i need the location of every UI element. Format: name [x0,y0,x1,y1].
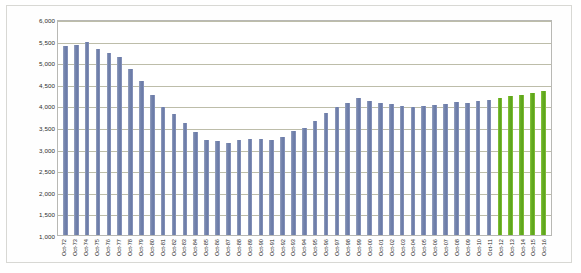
x-axis-tick-label: Oct-79 [138,239,144,256]
bar-slot [364,21,375,235]
y-axis-tick-label: 3,500 [22,125,55,132]
bar-series [58,21,551,235]
x-axis-tick-label: Oct-97 [334,239,340,256]
x-tick-slot: Oct-12 [495,238,506,272]
x-axis-tick-label: Oct-72 [61,239,67,256]
x-axis-tick-label: Oct-75 [94,239,100,256]
bar [443,104,448,235]
bar [193,132,198,235]
bar [183,123,188,235]
x-axis-tick-label: Oct-96 [323,239,329,256]
y-axis-tick-label: 3,000 [22,146,55,153]
plot-area [57,20,552,236]
x-axis-tick-label: Oct-04 [410,239,416,256]
bar-slot [179,21,190,235]
bar-slot [505,21,516,235]
y-axis: 6,0005,5005,0004,5004,0003,5003,0002,500… [22,20,55,236]
bar [128,69,133,235]
x-axis-tick-label: Oct-73 [72,239,78,256]
x-axis-tick-label: Oct-98 [345,239,351,256]
bar-slot [255,21,266,235]
x-tick-slot: Oct-14 [517,238,528,272]
x-tick-slot: Oct-84 [190,238,201,272]
x-axis-tick-label: Oct-76 [105,239,111,256]
x-axis-tick-label: Oct-92 [280,239,286,256]
bar [421,106,426,235]
x-axis-tick-label: Oct-86 [214,239,220,256]
x-axis-tick-label: Oct-05 [421,239,427,256]
x-axis-tick-label: Oct-81 [160,239,166,256]
x-tick-slot: Oct-74 [81,238,92,272]
x-axis-tick-label: Oct-08 [454,239,460,256]
bar [204,140,209,235]
y-axis-tick-label: 6,000 [22,17,55,24]
x-tick-slot: Oct-91 [266,238,277,272]
y-axis-tick-label: 5,000 [22,60,55,67]
x-axis-tick-label: Oct-84 [192,239,198,256]
bar-slot [321,21,332,235]
bar-slot [484,21,495,235]
x-tick-slot: Oct-11 [484,238,495,272]
bar-slot [234,21,245,235]
x-axis-tick-label: Oct-14 [520,239,526,256]
x-tick-slot: Oct-04 [408,238,419,272]
bar [85,42,90,235]
y-axis-tick-label: 4,000 [22,103,55,110]
bar-slot [516,21,527,235]
x-tick-slot: Oct-94 [299,238,310,272]
x-tick-slot: Oct-07 [441,238,452,272]
bar-slot [136,21,147,235]
bar [237,140,242,235]
x-axis-tick-label: Oct-00 [367,239,373,256]
x-tick-slot: Oct-79 [135,238,146,272]
x-tick-slot: Oct-10 [473,238,484,272]
x-tick-slot: Oct-00 [364,238,375,272]
x-axis-tick-label: Oct-83 [181,239,187,256]
bar-slot [331,21,342,235]
x-tick-slot: Oct-88 [234,238,245,272]
x-tick-slot: Oct-86 [212,238,223,272]
x-axis-tick-label: Oct-11 [487,239,493,256]
bar-slot [158,21,169,235]
bar [96,49,101,235]
x-axis-tick-label: Oct-15 [530,239,536,256]
x-axis-tick-label: Oct-99 [356,239,362,256]
x-tick-slot: Oct-80 [146,238,157,272]
x-axis-tick-label: Oct-85 [203,239,209,256]
bar [74,45,79,235]
bar [498,98,503,235]
x-axis-tick-label: Oct-09 [465,239,471,256]
bar [248,139,253,235]
bar [400,106,405,235]
x-tick-slot: Oct-81 [157,238,168,272]
bar-slot [375,21,386,235]
x-tick-slot: Oct-93 [288,238,299,272]
x-tick-slot: Oct-97 [332,238,343,272]
bar-slot [451,21,462,235]
bar-slot [82,21,93,235]
bar [161,107,166,235]
bar-slot [473,21,484,235]
x-axis-tick-label: Oct-77 [116,239,122,256]
x-tick-slot: Oct-76 [103,238,114,272]
bar-slot [277,21,288,235]
x-tick-slot: Oct-16 [539,238,550,272]
bar-slot [103,21,114,235]
x-tick-slot: Oct-83 [179,238,190,272]
x-tick-slot: Oct-01 [375,238,386,272]
bar [345,103,350,235]
bar [411,107,416,235]
bar-slot [93,21,104,235]
bar [259,139,264,235]
x-tick-slot: Oct-89 [244,238,255,272]
bar [508,96,513,235]
bar-slot [60,21,71,235]
x-axis-tick-label: Oct-07 [443,239,449,256]
x-axis-tick-label: Oct-80 [149,239,155,256]
x-axis-tick-label: Oct-16 [541,239,547,256]
x-axis-tick-label: Oct-88 [236,239,242,256]
bar-slot [147,21,158,235]
x-tick-slot: Oct-08 [452,238,463,272]
bar [172,114,177,235]
bar [117,57,122,235]
